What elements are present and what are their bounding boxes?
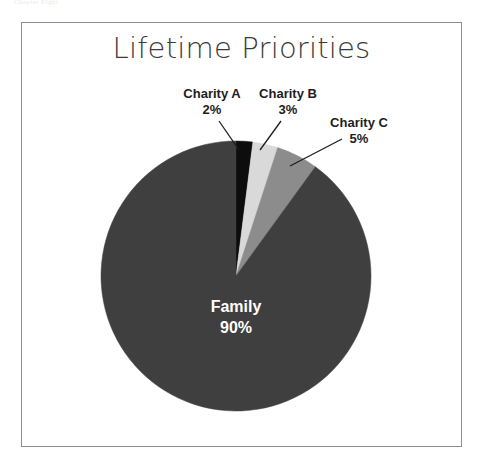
callout-charity-b-label: Charity B — [259, 86, 317, 101]
callout-family-label: Family — [211, 298, 262, 315]
pie-chart: Charity A 2% Charity B 3% Charity C 5% F… — [22, 23, 463, 448]
figure-frame: Lifetime Priorities Charity A 2% Charity… — [21, 22, 462, 447]
callout-charity-a: Charity A 2% — [183, 86, 241, 117]
callout-charity-a-value: 2% — [203, 102, 222, 117]
callout-family-value: 90% — [220, 319, 252, 336]
callout-charity-b: Charity B 3% — [259, 86, 317, 117]
callout-charity-c-value: 5% — [350, 131, 369, 146]
page-running-head: Chapter Eight — [14, 0, 58, 6]
pie-slices — [101, 141, 371, 411]
callout-charity-a-label: Charity A — [183, 86, 241, 101]
callout-charity-c-label: Charity C — [330, 115, 388, 130]
callout-charity-b-value: 3% — [279, 102, 298, 117]
leader-line-charity-c — [290, 139, 342, 166]
pie-slice-family[interactable] — [101, 141, 371, 411]
